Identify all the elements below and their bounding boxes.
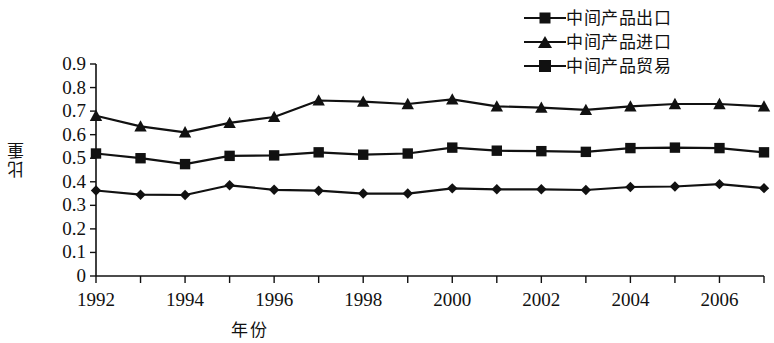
legend-item-export: 中间产品出口: [524, 6, 768, 30]
data-point-marker: [358, 149, 368, 159]
y-tick-label: 0.7: [42, 101, 86, 120]
x-tick-label: 2004: [595, 290, 665, 309]
data-point-marker: [492, 184, 502, 194]
y-tick-label: 0.4: [42, 172, 86, 191]
y-tick-label: 0.1: [42, 242, 86, 261]
y-tick-label: 0.6: [42, 125, 86, 144]
data-point-marker: [91, 185, 101, 195]
data-point-marker: [581, 185, 591, 195]
legend-label-import: 中间产品进口: [566, 34, 671, 51]
data-point-marker: [313, 147, 323, 157]
x-tick-label: 2002: [506, 290, 576, 309]
chart-legend: 中间产品出口 中间产品进口 中间产品贸易: [524, 6, 768, 78]
legend-item-trade: 中间产品贸易: [524, 54, 768, 78]
data-point-marker: [714, 143, 724, 153]
y-tick-label: 0.9: [42, 54, 86, 73]
x-tick-label: 1998: [328, 290, 398, 309]
data-point-marker: [269, 150, 279, 160]
data-point-marker: [759, 147, 769, 157]
data-point-marker: [670, 142, 680, 152]
triangle-marker-icon: [524, 32, 566, 52]
x-tick-label: 2006: [684, 290, 754, 309]
data-point-marker: [180, 159, 190, 169]
legend-label-trade: 中间产品贸易: [566, 58, 671, 75]
y-tick-label: 0.2: [42, 219, 86, 238]
data-point-marker: [625, 143, 635, 153]
data-point-marker: [714, 179, 724, 189]
data-point-marker: [670, 181, 680, 191]
data-point-marker: [492, 145, 502, 155]
diamond-marker-icon: [524, 8, 566, 28]
x-tick-label: 2000: [417, 290, 487, 309]
data-point-marker: [91, 148, 101, 158]
data-point-marker: [269, 185, 279, 195]
x-tick-label: 1994: [150, 290, 220, 309]
x-tick-label: 1992: [61, 290, 131, 309]
chart-container: 中间产品出口 中间产品进口 中间产品贸易 比重 年份 00.10.20.30.4…: [0, 0, 774, 343]
data-point-marker: [447, 183, 457, 193]
data-point-marker: [447, 142, 457, 152]
y-tick-label: 0.8: [42, 78, 86, 97]
y-tick-label: 0.5: [42, 148, 86, 167]
y-tick-label: 0: [42, 266, 86, 285]
square-marker-icon: [524, 56, 566, 76]
data-point-marker: [135, 153, 145, 163]
data-point-marker: [135, 190, 145, 200]
data-point-marker: [536, 184, 546, 194]
data-point-marker: [581, 147, 591, 157]
data-point-marker: [313, 186, 323, 196]
y-axis-title: 比重: [8, 140, 38, 178]
data-point-marker: [759, 183, 769, 193]
data-point-marker: [358, 188, 368, 198]
data-point-marker: [403, 148, 413, 158]
legend-label-export: 中间产品出口: [566, 10, 671, 27]
data-point-marker: [536, 146, 546, 156]
data-point-marker: [224, 180, 234, 190]
y-tick-label: 0.3: [42, 195, 86, 214]
data-point-marker: [625, 182, 635, 192]
x-tick-label: 1996: [239, 290, 309, 309]
data-point-marker: [180, 190, 190, 200]
legend-item-import: 中间产品进口: [524, 30, 768, 54]
x-axis-title: 年份: [0, 316, 500, 341]
data-point-marker: [403, 188, 413, 198]
data-point-marker: [224, 151, 234, 161]
